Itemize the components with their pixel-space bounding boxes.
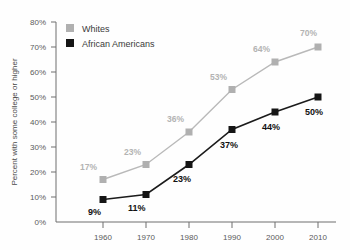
y-tick-label: 50% xyxy=(30,93,46,102)
x-tick-label: 1990 xyxy=(223,233,241,242)
x-tick-label: 2010 xyxy=(309,233,327,242)
data-label-african-americans: 37% xyxy=(220,140,238,150)
y-tick-label: 60% xyxy=(30,68,46,77)
x-tick-label: 2000 xyxy=(266,233,284,242)
y-tick-label: 0% xyxy=(34,218,46,227)
axis-lines xyxy=(56,22,336,222)
x-tick-label: 1960 xyxy=(94,233,112,242)
y-tick-label: 10% xyxy=(30,193,46,202)
legend: Whites African Americans xyxy=(66,24,155,49)
data-label-whites: 53% xyxy=(210,72,227,82)
series-line-whites xyxy=(103,47,318,180)
data-label-african-americans: 9% xyxy=(88,207,101,217)
chart-container: Percent with some college or higher 80% … xyxy=(0,0,350,250)
line-chart: Percent with some college or higher 80% … xyxy=(0,0,350,250)
y-tick-marks xyxy=(51,22,56,197)
data-label-african-americans: 44% xyxy=(262,122,280,132)
x-tick-label: 1980 xyxy=(180,233,198,242)
data-label-african-americans: 11% xyxy=(128,203,146,213)
legend-label-african-americans: African Americans xyxy=(82,39,155,49)
data-label-whites: 70% xyxy=(300,28,317,38)
data-label-whites: 64% xyxy=(253,44,270,54)
legend-swatch-whites xyxy=(66,24,74,32)
data-label-whites: 23% xyxy=(124,147,141,157)
y-tick-label: 40% xyxy=(30,118,46,127)
data-label-whites: 17% xyxy=(80,162,97,172)
legend-swatch-african-americans xyxy=(66,39,74,47)
y-tick-label: 80% xyxy=(30,18,46,27)
x-tick-marks xyxy=(103,222,318,228)
y-axis-title: Percent with some college or higher xyxy=(10,58,19,186)
data-label-african-americans: 50% xyxy=(305,107,323,117)
y-tick-label: 70% xyxy=(30,43,46,52)
x-tick-label: 1970 xyxy=(137,233,155,242)
data-label-whites: 36% xyxy=(167,114,184,124)
series-markers-whites xyxy=(100,44,322,184)
legend-label-whites: Whites xyxy=(82,24,110,34)
y-tick-label: 30% xyxy=(30,143,46,152)
y-tick-label: 20% xyxy=(30,168,46,177)
data-label-african-americans: 23% xyxy=(173,174,191,184)
